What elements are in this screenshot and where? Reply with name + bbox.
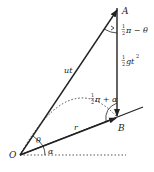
angle-label-alpha: α — [48, 147, 54, 156]
svg-text:2: 2 — [122, 61, 125, 67]
angle-arc-alpha — [43, 146, 45, 155]
svg-text:1: 1 — [91, 92, 94, 98]
segment-label-r: r — [74, 123, 79, 132]
svg-text:gt: gt — [126, 57, 135, 66]
point-label-B: B — [117, 123, 125, 133]
angle-arc-A — [104, 29, 117, 33]
angle-label-at-B: 1 2 π + α — [91, 92, 119, 105]
segment-label-ut: ut — [64, 66, 73, 75]
svg-text:1: 1 — [122, 54, 125, 60]
trajectory-curve — [20, 98, 117, 155]
svg-text:2: 2 — [122, 30, 125, 36]
projectile-diagram: A B O ut r 1 2 gt 2 1 2 π − θ 1 2 π + α … — [0, 0, 154, 172]
vector-OB — [20, 118, 116, 155]
angle-label-at-A: 1 2 π − θ — [122, 23, 149, 36]
svg-text:π + α: π + α — [94, 95, 118, 104]
svg-text:2: 2 — [91, 99, 94, 105]
point-label-O: O — [9, 150, 17, 160]
angle-label-theta: θ — [36, 136, 41, 145]
angle-arc-A-arrow-icon — [111, 26, 114, 30]
segment-label-half-gt2: 1 2 gt 2 — [122, 53, 140, 67]
vector-OA — [20, 10, 117, 155]
point-label-A: A — [121, 6, 129, 16]
svg-text:π − θ: π − θ — [125, 26, 148, 35]
svg-text:1: 1 — [122, 23, 125, 29]
svg-text:2: 2 — [136, 53, 139, 59]
